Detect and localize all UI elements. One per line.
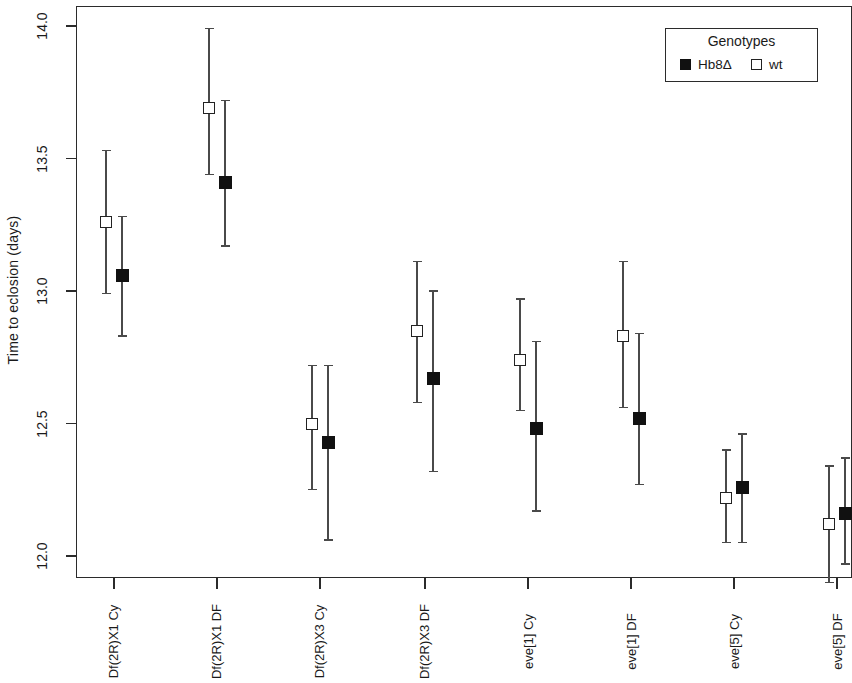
data-point-hb8delta	[322, 436, 335, 449]
x-axis-tick-label: eve[5] Cy	[725, 594, 743, 683]
x-axis-tick-label-text: Df(2R)X3 Cy	[313, 605, 328, 679]
x-axis-tick	[527, 578, 528, 589]
error-bar-cap	[722, 449, 731, 450]
error-bar-cap	[102, 150, 111, 151]
x-axis-tick-label-text: Df(2R)X1 Cy	[107, 605, 122, 679]
data-point-hb8delta	[839, 507, 852, 520]
error-bar-cap	[429, 290, 438, 291]
data-point-hb8delta	[736, 481, 749, 494]
x-axis-tick	[216, 578, 217, 589]
error-bar-cap	[516, 410, 525, 411]
legend-entry-wt: wt	[751, 57, 783, 72]
legend-entry-label: wt	[769, 57, 783, 72]
x-axis-tick-label-text: Df(2R)X1 DF	[210, 604, 225, 679]
data-point-hb8delta	[219, 176, 232, 189]
x-axis-tick	[113, 578, 114, 589]
legend-entry-hb8delta: Hb8Δ	[680, 57, 732, 72]
error-bar	[327, 365, 328, 540]
y-axis-tick-label: 12.0	[22, 548, 62, 564]
data-point-wt	[411, 325, 423, 337]
x-axis-tick-label: Df(2R)X3 DF	[416, 594, 434, 683]
legend: Genotypes Hb8Δ wt	[665, 28, 818, 82]
error-bar-cap	[413, 402, 422, 403]
error-bar-cap	[308, 489, 317, 490]
y-axis-tick-label-text: 12.5	[34, 410, 50, 437]
error-bar-cap	[825, 465, 834, 466]
y-axis-title-text: Time to eclosion (days)	[5, 216, 21, 365]
x-axis-tick-label-text: eve[5] DF	[830, 613, 845, 669]
data-point-wt	[514, 354, 526, 366]
x-axis-tick	[319, 578, 320, 589]
data-point-wt	[306, 418, 318, 430]
x-axis-tick-label-text: eve[1] Cy	[521, 614, 536, 669]
y-axis-tick-label-text: 13.5	[34, 145, 50, 172]
error-bar-cap	[324, 539, 333, 540]
data-point-hb8delta	[427, 372, 440, 385]
error-bar-cap	[118, 216, 127, 217]
y-axis-tick-label: 13.5	[22, 151, 62, 167]
error-bar-cap	[841, 457, 850, 458]
error-bar-cap	[205, 28, 214, 29]
x-axis-tick-label: eve[1] Cy	[519, 594, 537, 683]
y-axis-tick-label-text: 12.0	[34, 542, 50, 569]
error-bar-cap	[102, 293, 111, 294]
x-axis-tick	[424, 578, 425, 589]
error-bar-cap	[825, 582, 834, 583]
error-bar	[224, 100, 225, 246]
error-bar-cap	[532, 341, 541, 342]
error-bar-cap	[635, 484, 644, 485]
error-bar-cap	[841, 563, 850, 564]
y-axis-tick	[66, 158, 77, 159]
data-point-hb8delta	[116, 269, 129, 282]
error-bar-cap	[205, 174, 214, 175]
data-point-hb8delta	[530, 422, 543, 435]
data-point-wt	[720, 492, 732, 504]
y-axis-tick	[66, 555, 77, 556]
x-axis-tick	[630, 578, 631, 589]
open-square-icon	[751, 59, 762, 70]
y-axis-tick	[66, 290, 77, 291]
error-bar-cap	[738, 433, 747, 434]
x-axis-tick-label: Df(2R)X1 Cy	[105, 594, 123, 683]
x-axis-tick-label-text: Df(2R)X3 DF	[418, 604, 433, 679]
data-point-wt	[823, 518, 835, 530]
error-bar-cap	[413, 261, 422, 262]
y-axis-tick	[66, 423, 77, 424]
legend-title: Genotypes	[666, 33, 817, 49]
data-point-wt	[100, 216, 112, 228]
error-bar-cap	[221, 100, 230, 101]
error-bar-cap	[619, 261, 628, 262]
eclosion-time-chart: Time to eclosion (days) 12.012.513.013.5…	[0, 0, 852, 683]
x-axis-tick-label-text: eve[5] Cy	[727, 614, 742, 669]
error-bar-cap	[722, 542, 731, 543]
error-bar-cap	[738, 542, 747, 543]
y-axis-tick-label: 14.0	[22, 18, 62, 34]
data-point-wt	[203, 102, 215, 114]
error-bar-cap	[308, 365, 317, 366]
y-axis-tick-label: 12.5	[22, 416, 62, 432]
y-axis-tick	[66, 25, 77, 26]
y-axis-tick-label-text: 14.0	[34, 12, 50, 39]
x-axis-tick	[733, 578, 734, 589]
error-bar-cap	[635, 333, 644, 334]
x-axis-tick-label: Df(2R)X1 DF	[208, 594, 226, 683]
x-axis-tick-label: Df(2R)X3 Cy	[311, 594, 329, 683]
data-point-hb8delta	[633, 412, 646, 425]
error-bar	[638, 333, 639, 484]
x-axis-tick-label: eve[1] DF	[622, 594, 640, 683]
x-axis-tick-label: eve[5] DF	[828, 594, 846, 683]
error-bar-cap	[619, 407, 628, 408]
error-bar-cap	[118, 335, 127, 336]
y-axis-tick-label: 13.0	[22, 283, 62, 299]
filled-square-icon	[680, 59, 691, 70]
error-bar-cap	[516, 298, 525, 299]
error-bar-cap	[532, 510, 541, 511]
x-axis-tick-label-text: eve[1] DF	[624, 613, 639, 669]
y-axis-tick-label-text: 13.0	[34, 277, 50, 304]
data-point-wt	[617, 330, 629, 342]
error-bar-cap	[429, 471, 438, 472]
x-axis-tick	[836, 578, 837, 589]
legend-entry-label: Hb8Δ	[698, 57, 732, 72]
error-bar-cap	[324, 365, 333, 366]
error-bar-cap	[221, 245, 230, 246]
